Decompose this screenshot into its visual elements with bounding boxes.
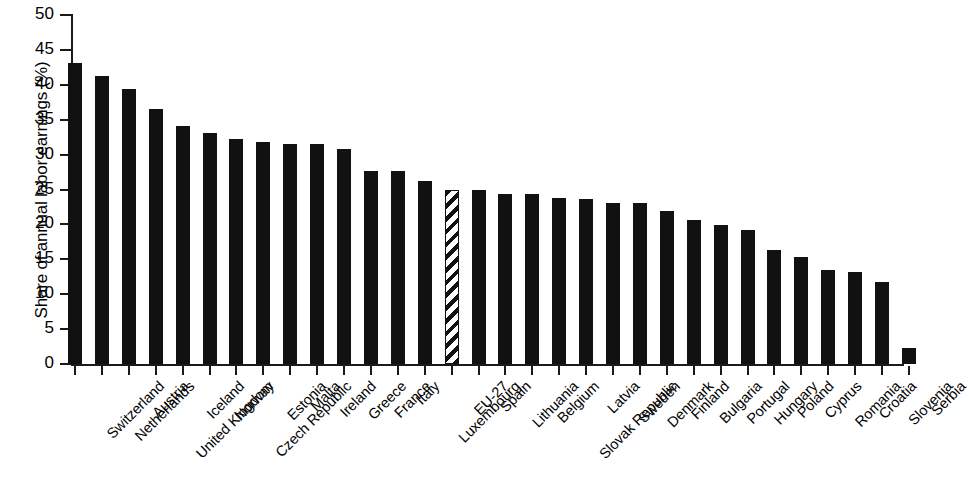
bar-italy bbox=[391, 171, 405, 364]
x-axis-tick bbox=[397, 366, 399, 375]
y-axis-tick-label: 40 bbox=[18, 74, 54, 94]
bar-latvia bbox=[579, 199, 593, 364]
plot-area: 05101520253035404550 bbox=[0, 0, 904, 384]
x-axis-tick bbox=[800, 366, 802, 375]
x-axis-tick bbox=[504, 366, 506, 375]
bar-united-kingdom bbox=[149, 109, 163, 364]
x-axis-tick bbox=[908, 366, 910, 375]
bar-denmark bbox=[633, 203, 647, 364]
y-axis-tick-label: 15 bbox=[18, 248, 54, 268]
y-axis-tick-label: 35 bbox=[18, 109, 54, 129]
x-axis-tick bbox=[478, 366, 480, 375]
x-axis-tick bbox=[747, 366, 749, 375]
bar-hungary bbox=[741, 230, 755, 364]
x-axis-tick bbox=[101, 366, 103, 375]
x-axis-tick bbox=[451, 366, 453, 375]
x-axis-tick bbox=[235, 366, 237, 375]
bar-belgium bbox=[525, 194, 539, 364]
bar-norway bbox=[203, 133, 217, 364]
x-axis-tick bbox=[881, 366, 883, 375]
y-axis-tick bbox=[60, 49, 71, 51]
bar-estonia bbox=[256, 142, 270, 364]
y-axis-tick-label: 25 bbox=[18, 179, 54, 199]
bar-bulgaria bbox=[687, 220, 701, 364]
bar-lithuania bbox=[498, 194, 512, 364]
bar-cyprus bbox=[794, 257, 808, 364]
bar-romania bbox=[821, 270, 835, 364]
bar-austria bbox=[122, 89, 136, 364]
bar-slovenia bbox=[875, 282, 889, 364]
x-axis-tick bbox=[612, 366, 614, 375]
bar-netherlands bbox=[95, 76, 109, 364]
y-axis-tick-label: 0 bbox=[18, 353, 54, 373]
x-axis-tick bbox=[720, 366, 722, 375]
bar-sweden bbox=[606, 203, 620, 364]
x-axis-tick bbox=[343, 366, 345, 375]
x-axis-tick bbox=[209, 366, 211, 375]
y-axis-tick-label: 5 bbox=[18, 318, 54, 338]
bar-finland bbox=[660, 211, 674, 364]
x-axis-tick bbox=[74, 366, 76, 375]
bar-iceland bbox=[176, 126, 190, 364]
bar-portugal bbox=[714, 225, 728, 364]
bar-spain bbox=[472, 190, 486, 364]
bar-malta bbox=[283, 144, 297, 364]
y-axis-tick bbox=[60, 14, 71, 16]
bar-switzerland bbox=[68, 63, 82, 364]
bar-greece bbox=[337, 149, 351, 364]
x-axis-tick bbox=[693, 366, 695, 375]
x-axis-tick bbox=[262, 366, 264, 375]
x-axis-tick bbox=[531, 366, 533, 375]
y-axis-tick-label: 45 bbox=[18, 39, 54, 59]
y-axis-tick-label: 10 bbox=[18, 283, 54, 303]
x-axis-tick bbox=[585, 366, 587, 375]
x-axis-tick bbox=[639, 366, 641, 375]
x-axis-tick bbox=[773, 366, 775, 375]
bar-ireland bbox=[310, 144, 324, 364]
x-axis-tick bbox=[370, 366, 372, 375]
x-axis-tick bbox=[558, 366, 560, 375]
x-axis-tick bbox=[827, 366, 829, 375]
bar-croatia bbox=[848, 272, 862, 364]
bar-france bbox=[364, 171, 378, 364]
x-axis-tick bbox=[316, 366, 318, 375]
x-axis-tick bbox=[854, 366, 856, 375]
bar-luxembourg bbox=[418, 181, 432, 364]
y-axis-tick-label: 50 bbox=[18, 4, 54, 24]
x-axis-line bbox=[71, 364, 904, 366]
bar-eu-27 bbox=[445, 190, 459, 364]
bar-slovak-republic bbox=[552, 198, 566, 364]
x-axis-tick bbox=[128, 366, 130, 375]
x-axis-tick bbox=[666, 366, 668, 375]
y-axis-tick-label: 20 bbox=[18, 213, 54, 233]
x-axis-tick bbox=[289, 366, 291, 375]
y-axis-tick-label: 30 bbox=[18, 144, 54, 164]
bar-serbia bbox=[902, 348, 916, 364]
x-axis-tick bbox=[182, 366, 184, 375]
bar-poland bbox=[767, 250, 781, 364]
bar-czech-republic bbox=[229, 139, 243, 364]
x-axis-tick bbox=[155, 366, 157, 375]
x-axis-tick bbox=[424, 366, 426, 375]
